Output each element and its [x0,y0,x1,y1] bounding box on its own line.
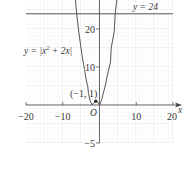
x-tick-label: −20 [18,111,34,122]
y-tick-label: −5 [84,138,95,149]
x-tick-label: −10 [55,111,71,122]
x-axis-label: x [177,105,183,115]
point-label: (−1, 1) [70,88,97,100]
origin-label: O [90,108,97,118]
x-tick-label: 20 [167,111,177,122]
point-marker [94,100,97,103]
y-tick-label: 20 [85,24,95,35]
x-tick-label: 10 [131,111,141,122]
y-tick-label: 10 [85,62,95,73]
graph: −20 −10 10 20 x 20 10 −5 O (−1, 1) y = 2… [0,0,193,187]
line-label: y = 24 [132,2,158,12]
